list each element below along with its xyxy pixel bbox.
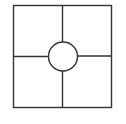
center-circle [49,42,78,71]
quadrant-diagram [0,0,126,124]
